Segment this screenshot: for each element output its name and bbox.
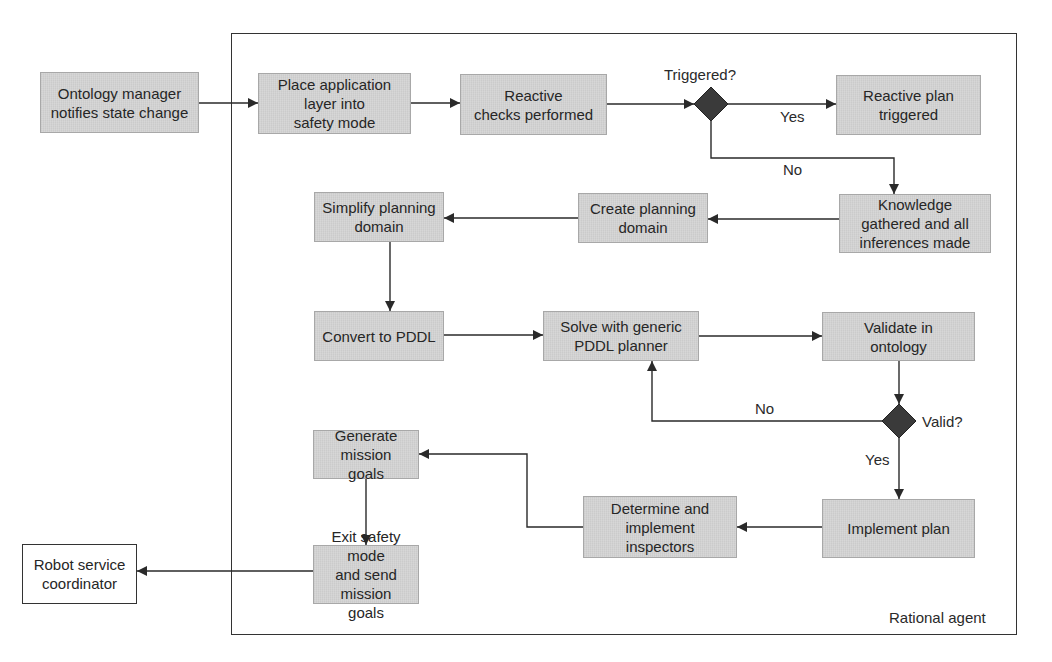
node-ontology: Ontology manager notifies state change <box>40 72 199 133</box>
edge-label-yes: Yes <box>780 108 804 126</box>
node-knowledge: Knowledge gathered and all inferences ma… <box>839 194 991 253</box>
node-generate: Generate mission goals <box>313 430 419 479</box>
node-convert: Convert to PDDL <box>314 311 444 361</box>
node-create: Create planning domain <box>578 193 708 243</box>
edge-label-no: No <box>783 161 802 179</box>
decision-valid-label: Valid? <box>922 413 963 431</box>
decision-valid-diamond-icon <box>882 404 916 438</box>
node-reactive-checks: Reactive checks performed <box>460 74 607 135</box>
node-simplify: Simplify planning domain <box>314 192 444 242</box>
decision-triggered-diamond-icon <box>694 87 728 121</box>
flowchart-canvas: Rational agent Ontology manager notifies… <box>0 0 1052 662</box>
node-reactive-plan: Reactive plan triggered <box>836 75 981 135</box>
node-solve: Solve with generic PDDL planner <box>543 311 699 361</box>
edge-label-no: No <box>755 400 774 418</box>
node-exit: Exit safety mode and send mission goals <box>313 545 419 604</box>
decision-triggered-label: Triggered? <box>664 66 736 84</box>
edge-label-yes: Yes <box>865 451 889 469</box>
node-implement: Implement plan <box>822 499 975 558</box>
node-robot: Robot service coordinator <box>22 544 137 604</box>
node-place: Place application layer into safety mode <box>258 73 411 134</box>
node-validate: Validate in ontology <box>822 312 975 361</box>
arrow-determine-to-generate <box>419 454 583 527</box>
node-determine: Determine and implement inspectors <box>583 496 737 558</box>
